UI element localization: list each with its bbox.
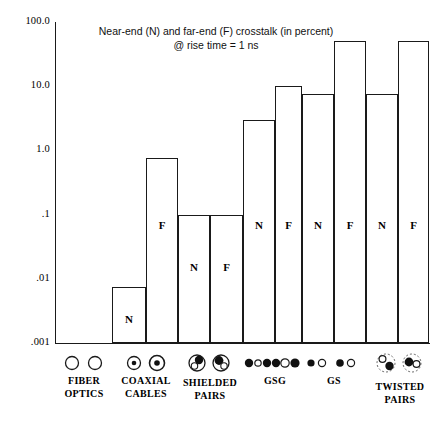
bar-series-letter: N (303, 219, 333, 231)
y-axis-tick-label: 10.0 (4, 79, 50, 90)
bar-series-letter: F (276, 219, 301, 231)
bar-twisted-pairs-n: N (366, 94, 398, 343)
two-dashed-twisted-pair-icon (345, 352, 443, 374)
category-label-twisted-pairs: TWISTED PAIRS (345, 381, 443, 406)
plot-area: NFNFNFNFNF (55, 22, 430, 343)
bar-series-letter: N (179, 261, 209, 273)
bar-shielded-pairs-n: N (178, 215, 210, 343)
crosstalk-bar-chart: Near-end (N) and far-end (F) crosstalk (… (0, 0, 443, 421)
y-axis-tick-label: .001 (4, 336, 50, 347)
y-axis-tick-label: .1 (4, 208, 50, 219)
bar-series-letter: F (211, 261, 242, 273)
bar-twisted-pairs-f: F (398, 41, 429, 343)
bar-gs-n: N (302, 94, 334, 343)
x-axis-line (55, 343, 430, 344)
bar-series-letter: F (399, 219, 428, 231)
bar-series-letter: N (367, 219, 397, 231)
bar-shielded-pairs-f: F (210, 215, 243, 343)
bar-coaxial-cables-f: F (146, 158, 178, 343)
bar-series-letter: N (113, 313, 145, 325)
y-axis-tick-label: 1.0 (4, 143, 50, 154)
category-twisted-pairs: TWISTED PAIRS (345, 352, 443, 406)
bar-gsg-f: F (275, 86, 302, 343)
bar-coaxial-cables-n: N (112, 287, 146, 343)
bar-series-letter: F (147, 219, 177, 231)
bar-series-letter: N (244, 219, 274, 231)
bar-gsg-n: N (243, 120, 275, 343)
bar-gs-f: F (334, 41, 366, 343)
y-axis-tick-label: .01 (4, 272, 50, 283)
y-axis-tick-label: 100.0 (4, 15, 50, 26)
bar-series-letter: F (335, 219, 365, 231)
